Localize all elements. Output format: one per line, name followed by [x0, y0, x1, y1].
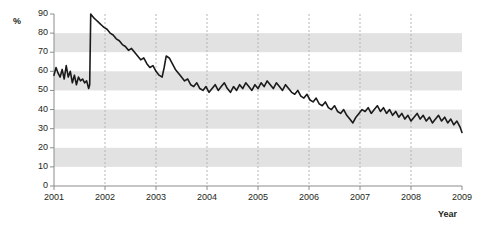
x-tick-label: 2004 [187, 192, 227, 202]
y-axis-ticks [50, 14, 54, 186]
x-tick-label: 2002 [85, 192, 125, 202]
x-tick-label: 2003 [136, 192, 176, 202]
line-chart-figure: % Year 0102030405060708090 2001200220032… [0, 0, 486, 230]
x-axis-ticks [54, 186, 462, 190]
x-tick-label: 2007 [340, 192, 380, 202]
y-tick-label: 20 [10, 142, 48, 152]
x-tick-label: 2009 [442, 192, 482, 202]
x-tick-label: 2005 [238, 192, 278, 202]
x-tick-label: 2006 [289, 192, 329, 202]
y-tick-label: 0 [10, 180, 48, 190]
x-tick-label: 2008 [391, 192, 431, 202]
y-tick-label: 60 [10, 65, 48, 75]
y-tick-label: 30 [10, 123, 48, 133]
y-tick-label: 70 [10, 46, 48, 56]
y-tick-label: 10 [10, 161, 48, 171]
y-tick-label: 90 [10, 8, 48, 18]
x-tick-label: 2001 [34, 192, 74, 202]
y-tick-label: 50 [10, 84, 48, 94]
y-tick-label: 80 [10, 27, 48, 37]
y-tick-label: 40 [10, 104, 48, 114]
